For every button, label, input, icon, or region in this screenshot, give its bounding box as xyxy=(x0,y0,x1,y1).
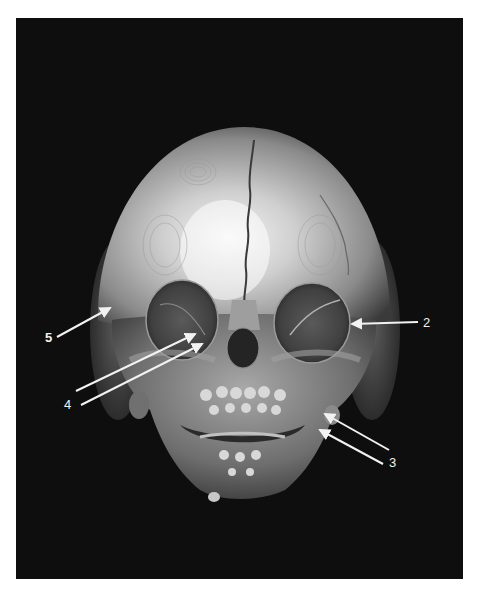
nasal-aperture xyxy=(227,328,259,368)
left-orbit xyxy=(146,280,218,360)
nasal-bridge xyxy=(228,300,260,330)
arrow-3-2 xyxy=(320,430,383,464)
skull-rendering xyxy=(0,0,481,593)
annotation-label-2: 2 xyxy=(423,316,430,329)
arrow-3-1 xyxy=(325,414,389,450)
annotation-label-3: 3 xyxy=(389,456,396,469)
annotation-label-5: 5 xyxy=(45,331,52,344)
annotation-label-4: 4 xyxy=(64,398,71,411)
